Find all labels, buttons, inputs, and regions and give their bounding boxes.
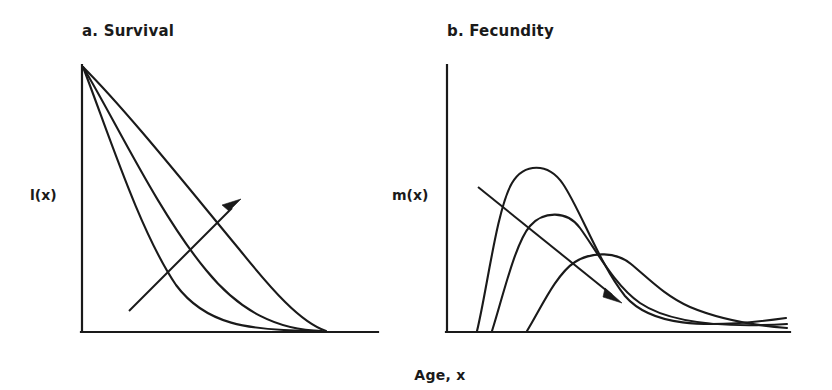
panel-survival-y-axis-label: l(x) xyxy=(30,187,57,203)
figure-canvas: a. Survival l(x) b. Fecundity m(x) xyxy=(0,0,832,390)
panel-fecundity-y-axis-label: m(x) xyxy=(392,187,428,203)
panel-survival-title: a. Survival xyxy=(82,22,174,40)
panel-survival: a. Survival l(x) xyxy=(30,22,378,332)
fecundity-trend-arrow-head xyxy=(603,288,622,303)
panel-fecundity-title: b. Fecundity xyxy=(447,22,554,40)
survival-trend-arrow-line xyxy=(129,208,232,311)
fecundity-trend-arrow xyxy=(478,187,622,303)
figure-root: a. Survival l(x) b. Fecundity m(x) xyxy=(0,0,832,390)
fecundity-curve-early-high xyxy=(477,168,786,331)
x-axis-caption: Age, x xyxy=(414,367,465,383)
panel-fecundity: b. Fecundity m(x) xyxy=(392,22,790,332)
survival-curve-high xyxy=(83,67,326,331)
fecundity-curve-late-low xyxy=(527,254,787,331)
